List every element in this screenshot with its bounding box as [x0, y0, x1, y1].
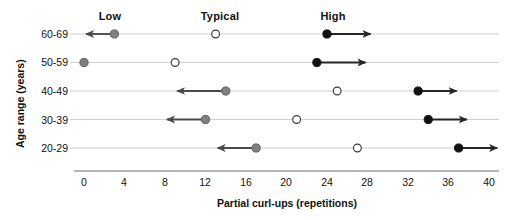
marker-low [110, 30, 118, 38]
marker-low [252, 144, 260, 152]
y-axis-label-20-29: 20-29 [0, 142, 68, 154]
x-tick-4: 4 [104, 176, 144, 188]
marker-high [414, 87, 422, 95]
marker-typical [171, 59, 179, 67]
x-axis-title: Partial curl-ups (repetitions) [172, 197, 402, 209]
marker-high [313, 58, 321, 66]
x-tick-28: 28 [347, 176, 387, 188]
x-tick-16: 16 [226, 176, 266, 188]
marker-low [80, 58, 88, 66]
column-header-high: High [298, 10, 368, 22]
marker-typical [353, 144, 361, 152]
y-axis-label-50-59: 50-59 [0, 56, 68, 68]
column-header-low: Low [75, 10, 145, 22]
marker-typical [212, 30, 220, 38]
y-axis-label-40-49: 40-49 [0, 85, 68, 97]
y-axis-label-30-39: 30-39 [0, 114, 68, 126]
chart-container: Low Typical High 60-69 50-59 40-49 30-39… [0, 0, 526, 220]
x-tick-32: 32 [388, 176, 428, 188]
y-axis-title: Age range (years) [14, 59, 26, 148]
x-tick-24: 24 [307, 176, 347, 188]
x-tick-12: 12 [185, 176, 225, 188]
marker-typical [333, 87, 341, 95]
marker-high [323, 30, 331, 38]
marker-high [424, 115, 432, 123]
x-tick-20: 20 [266, 176, 306, 188]
marker-typical [293, 116, 301, 124]
x-tick-0: 0 [64, 176, 104, 188]
y-axis-label-60-69: 60-69 [0, 28, 68, 40]
column-header-typical: Typical [185, 10, 255, 22]
x-tick-8: 8 [145, 176, 185, 188]
marker-low [222, 87, 230, 95]
marker-high [455, 144, 463, 152]
x-tick-40: 40 [469, 176, 509, 188]
marker-low [201, 115, 209, 123]
x-tick-36: 36 [428, 176, 468, 188]
